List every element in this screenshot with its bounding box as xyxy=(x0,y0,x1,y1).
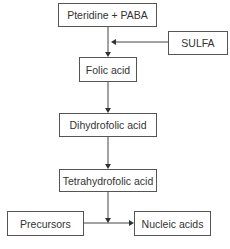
node-label: Tetrahydrofolic acid xyxy=(63,175,153,187)
arrowhead-icon xyxy=(105,218,111,223)
node-precursors: Precursors xyxy=(7,211,84,236)
node-tetrahydrofolic-acid: Tetrahydrofolic acid xyxy=(59,169,157,192)
node-label: Precursors xyxy=(20,218,71,230)
node-label: Dihydrofolic acid xyxy=(69,119,146,131)
node-nucleic-acids: Nucleic acids xyxy=(134,211,211,236)
node-label: Folic acid xyxy=(86,64,130,76)
node-label: SULFA xyxy=(181,37,214,49)
node-sulfa: SULFA xyxy=(168,31,228,55)
node-label: Pteridine + PABA xyxy=(67,9,148,21)
node-label: Nucleic acids xyxy=(142,218,204,230)
node-folic-acid: Folic acid xyxy=(79,57,137,82)
node-pteridine-paba: Pteridine + PABA xyxy=(58,3,157,27)
arrowhead-icon xyxy=(111,39,116,45)
node-dihydrofolic-acid: Dihydrofolic acid xyxy=(59,113,157,137)
